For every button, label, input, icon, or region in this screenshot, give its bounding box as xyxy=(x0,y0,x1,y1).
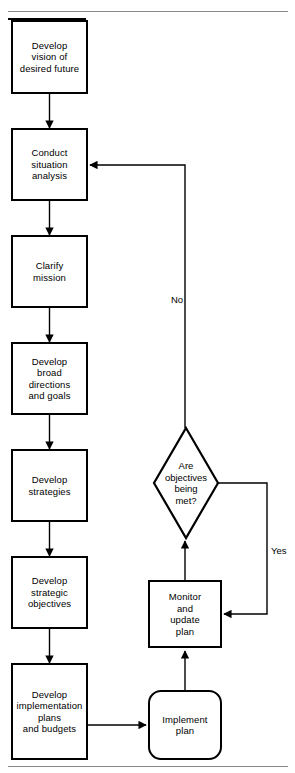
edge-label-no: No xyxy=(170,293,184,306)
node-conduct-situation[interactable]: Conduct situation analysis xyxy=(11,128,88,201)
flowchart-figure: Develop vision of desired future Conduct… xyxy=(0,0,295,773)
node-clarify-mission[interactable]: Clarify mission xyxy=(11,235,88,308)
edge-label-yes: Yes xyxy=(270,544,288,557)
node-label: Develop strategic objectives xyxy=(25,575,74,610)
node-develop-vision[interactable]: Develop vision of desired future xyxy=(11,20,88,94)
node-label: Develop implementation plans and budgets xyxy=(14,689,86,735)
node-are-objectives-met[interactable]: Are objectives being met? xyxy=(154,428,218,538)
node-label: Develop vision of desired future xyxy=(17,40,83,75)
node-develop-broad-directions[interactable]: Develop broad directions and goals xyxy=(11,342,88,415)
node-label: Conduct situation analysis xyxy=(28,147,70,182)
node-label: Develop strategies xyxy=(25,474,73,497)
node-develop-implementation-plans[interactable]: Develop implementation plans and budgets xyxy=(11,663,88,760)
node-label: Monitor and update plan xyxy=(166,591,204,637)
edge-decision-yes-to-monitor xyxy=(218,483,267,614)
node-develop-strategic-objectives[interactable]: Develop strategic objectives xyxy=(11,556,88,629)
node-implement-plan[interactable]: Implement plan xyxy=(148,690,222,760)
node-monitor-update-plan[interactable]: Monitor and update plan xyxy=(148,580,222,648)
node-label: Develop broad directions and goals xyxy=(25,356,73,402)
node-label: Clarify mission xyxy=(30,260,69,283)
node-label: Implement plan xyxy=(159,714,210,737)
bottom-rule xyxy=(8,766,288,767)
node-develop-strategies[interactable]: Develop strategies xyxy=(11,449,88,522)
node-label: Are objectives being met? xyxy=(165,460,207,506)
